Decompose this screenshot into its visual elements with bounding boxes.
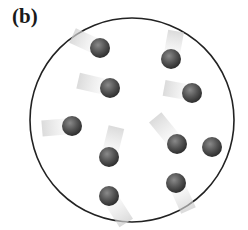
particle-ball xyxy=(166,173,186,193)
particle-ball xyxy=(202,137,222,157)
particle-ball xyxy=(182,83,202,103)
particle-ball xyxy=(100,78,120,98)
particle-ball xyxy=(99,147,119,167)
particle-ball xyxy=(99,186,119,206)
particle-ball xyxy=(167,134,187,154)
gas-particles-diagram xyxy=(0,0,248,230)
particle-ball xyxy=(62,116,82,136)
particles xyxy=(62,38,222,206)
particle-ball xyxy=(161,49,181,69)
particle-ball xyxy=(90,38,110,58)
